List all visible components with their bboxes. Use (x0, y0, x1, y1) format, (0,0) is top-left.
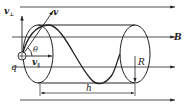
label-h: h (86, 83, 92, 93)
label-v-par: v∥ (32, 57, 40, 68)
label-theta: θ (33, 45, 38, 54)
label-v: v (53, 7, 59, 17)
label-r: R (137, 57, 145, 67)
label-q: q (11, 62, 17, 72)
theta-arc (28, 48, 32, 56)
label-b: B (173, 32, 182, 42)
helix-path (22, 25, 120, 84)
helix-diagram: v⊥ v θ v∥ q B R h (0, 0, 193, 111)
label-v-perp: v⊥ (4, 6, 14, 17)
cylinder-left-ellipse (23, 25, 53, 83)
